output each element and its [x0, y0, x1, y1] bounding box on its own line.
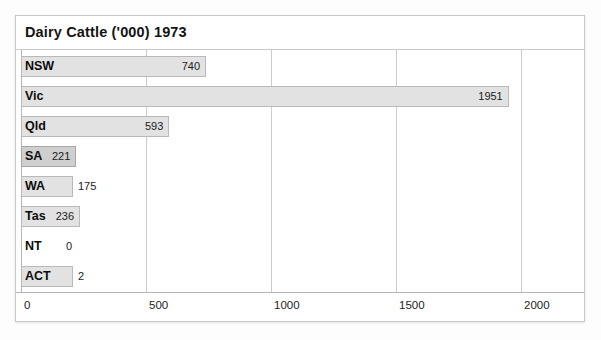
bar-row[interactable]: NT0: [20, 232, 584, 262]
category-label-wa: WA: [25, 176, 45, 197]
chart-frame: Dairy Cattle ('000) 1973 NSW740Vic1951Ql…: [15, 15, 585, 322]
bar-row[interactable]: Qld593: [20, 112, 584, 142]
chart-page: Dairy Cattle ('000) 1973 NSW740Vic1951Ql…: [0, 0, 601, 340]
chart-title-band: Dairy Cattle ('000) 1973: [16, 16, 584, 50]
x-axis: 0500100015002000: [16, 292, 584, 321]
bar-row[interactable]: SA221: [20, 142, 584, 172]
bar-row[interactable]: Vic1951: [20, 82, 584, 112]
plot-area: NSW740Vic1951Qld593SA221WA175Tas236NT0AC…: [20, 50, 584, 294]
x-tick-label-1500: 1500: [399, 299, 425, 311]
bar-row[interactable]: WA175: [20, 172, 584, 202]
value-label-wa: 175: [78, 176, 96, 197]
x-tick-label-2000: 2000: [524, 299, 550, 311]
value-label-sa: 221: [21, 146, 70, 167]
value-label-nt: 0: [66, 236, 72, 257]
x-tick-label-500: 500: [149, 299, 168, 311]
category-label-nt: NT: [25, 236, 42, 257]
plot-region: NSW740Vic1951Qld593SA221WA175Tas236NT0AC…: [16, 50, 584, 321]
value-label-act: 2: [78, 266, 84, 287]
value-label-qld: 593: [21, 116, 163, 137]
bar-row[interactable]: Tas236: [20, 202, 584, 232]
chart-title: Dairy Cattle ('000) 1973: [25, 24, 187, 40]
value-label-vic: 1951: [21, 86, 503, 107]
value-label-tas: 236: [21, 206, 74, 227]
bar-row[interactable]: NSW740: [20, 52, 584, 82]
value-label-nsw: 740: [21, 56, 200, 77]
x-tick-label-0: 0: [24, 299, 30, 311]
bar-row[interactable]: ACT2: [20, 262, 584, 292]
category-label-act: ACT: [25, 266, 51, 287]
x-tick-label-1000: 1000: [274, 299, 300, 311]
